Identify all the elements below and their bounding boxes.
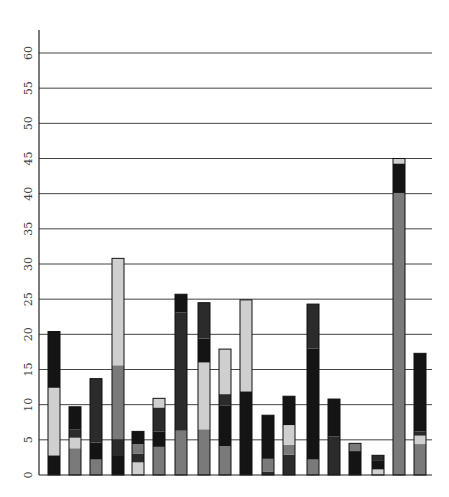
bar-segment-black (48, 455, 60, 475)
bar-segment-gray (393, 193, 405, 475)
y-tick-label: 40 (22, 187, 35, 201)
bar-segment-black (372, 461, 384, 469)
bar-segment-light (393, 159, 405, 164)
bar-segment-black (90, 443, 102, 460)
bar-segment-dark (69, 429, 81, 437)
bar-segment-black (240, 391, 252, 475)
bar-segment-dark (307, 304, 319, 348)
bar-segment-black (175, 294, 187, 312)
bar-segment-black (219, 405, 231, 446)
bar-segment-gray (175, 431, 187, 475)
bar-segment-gray (307, 460, 319, 475)
bar-segment-light (132, 462, 144, 475)
y-tick-label: 25 (22, 292, 35, 306)
bar-13 (307, 304, 319, 475)
bar-2 (69, 407, 81, 475)
bar-segment-light (69, 438, 81, 449)
bar-segment-dark (175, 313, 187, 431)
bar-segment-light (372, 469, 384, 475)
bar-segment-black (283, 396, 295, 425)
y-tick-label: 0 (22, 472, 35, 479)
bar-segment-light (283, 425, 295, 445)
bar-segment-dark (153, 407, 165, 431)
bar-segment-light (48, 388, 60, 456)
y-tick-label: 60 (22, 46, 35, 60)
bar-segment-light (198, 362, 210, 429)
bar-segment-light (153, 398, 165, 407)
bar-segment-gray (414, 444, 426, 475)
bar-segment-gray (198, 429, 210, 475)
stacked-bar-chart: 051015202530354045505560 (0, 0, 449, 497)
bar-segment-light (112, 258, 124, 365)
y-tick-label: 20 (22, 327, 35, 341)
bar-segment-gray (219, 446, 231, 475)
bar-segment-gray (349, 443, 361, 451)
bar-8 (198, 303, 210, 475)
bar-segment-gray (90, 460, 102, 475)
bar-segment-black (112, 456, 124, 475)
bar-5 (132, 431, 144, 475)
bar-4 (112, 258, 124, 475)
bar-segment-black (307, 348, 319, 459)
bar-segment-dark (372, 455, 384, 461)
bar-segment-black (414, 353, 426, 431)
bar-15 (349, 443, 361, 475)
bar-segment-dark (198, 303, 210, 339)
bar-segment-black (153, 431, 165, 446)
y-tick-label: 50 (22, 116, 35, 130)
bars (48, 159, 426, 476)
bar-segment-dark (414, 431, 426, 435)
bar-segment-black (393, 163, 405, 193)
bar-segment-gray (153, 447, 165, 475)
bar-segment-dark (132, 454, 144, 462)
bar-3 (90, 379, 102, 475)
y-tick-label: 35 (22, 222, 35, 236)
bar-11 (262, 415, 274, 475)
bar-7 (175, 294, 187, 475)
y-axis-ticks: 051015202530354045505560 (22, 46, 35, 479)
bar-segment-gray (283, 445, 295, 455)
bar-segment-black (349, 451, 361, 475)
bar-segment-black (132, 431, 144, 444)
bar-18 (414, 353, 426, 475)
bar-6 (153, 398, 165, 475)
bar-17 (393, 159, 405, 476)
bar-segment-light (240, 300, 252, 391)
bar-segment-black (69, 407, 81, 430)
y-tick-label: 30 (22, 257, 35, 271)
bar-segment-gray (69, 448, 81, 475)
bar-14 (328, 399, 340, 475)
bar-segment-gray (262, 459, 274, 472)
bar-9 (219, 349, 231, 475)
y-tick-label: 10 (22, 398, 35, 412)
bar-segment-black (328, 399, 340, 436)
bar-segment-light (414, 436, 426, 444)
bar-segment-dark (112, 439, 124, 456)
bar-segment-dark (219, 394, 231, 405)
bar-segment-gray (132, 444, 144, 454)
bar-1 (48, 332, 60, 475)
bar-segment-dark (283, 455, 295, 475)
bar-segment-dark (90, 379, 102, 443)
y-tick-label: 15 (22, 363, 35, 377)
bar-segment-light (219, 349, 231, 394)
bar-segment-black (48, 332, 60, 388)
bar-segment-dark (328, 436, 340, 475)
bar-12 (283, 396, 295, 475)
y-tick-label: 45 (22, 152, 35, 166)
bar-16 (372, 455, 384, 475)
bar-segment-black (198, 339, 210, 363)
bar-10 (240, 300, 252, 475)
bar-segment-black (262, 415, 274, 459)
y-tick-label: 55 (22, 81, 35, 95)
y-tick-label: 5 (22, 436, 35, 443)
bar-segment-gray (112, 365, 124, 439)
